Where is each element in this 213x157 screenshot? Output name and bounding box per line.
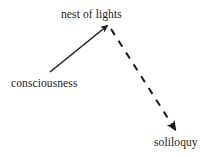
node-label-soliloquy: soliloquy: [154, 136, 198, 149]
concept-diagram: nest of lights consciousness soliloquy: [0, 0, 213, 157]
edge-nest-to-soliloquy: [111, 29, 176, 130]
edge-consciousness-to-nest: [50, 26, 108, 73]
node-label-nest-of-lights: nest of lights: [61, 8, 122, 21]
node-label-consciousness: consciousness: [11, 77, 77, 90]
